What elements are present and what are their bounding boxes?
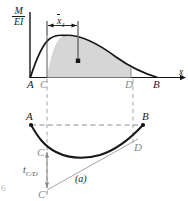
moment-area-figure: M EI x1 x A C D B A B C D C' tC/D (a) 6 <box>0 0 188 201</box>
point-label-D-elastic: D <box>134 142 142 153</box>
x-axis-label: x <box>179 68 183 78</box>
tangential-deviation-label: tC/D <box>23 165 37 178</box>
y-axis-label: M EI <box>12 6 25 27</box>
centroid-distance-subscript: 1 <box>61 21 65 29</box>
point-label-A-top: A <box>27 79 34 90</box>
dimension-arrowhead-right <box>72 23 78 27</box>
tangent-line-at-D <box>47 139 138 190</box>
tangential-deviation-subscript: C/D <box>26 170 38 178</box>
point-label-C-top: C <box>40 79 47 90</box>
page-number-marker: 6 <box>1 184 6 193</box>
deviation-arrowhead-top <box>45 152 49 158</box>
centroid-dot <box>76 59 80 63</box>
centroid-distance-label: x1 <box>57 16 65 29</box>
point-label-C-prime: C' <box>38 189 48 200</box>
point-marker-A-elastic <box>29 123 33 127</box>
point-marker-B-elastic <box>141 123 145 127</box>
y-axis-label-denominator: EI <box>12 17 25 27</box>
centroid-distance-symbol: x <box>57 15 61 26</box>
point-label-C-elastic: C <box>37 147 44 158</box>
dimension-arrowhead-left <box>48 23 54 27</box>
point-label-D-top: D <box>125 79 133 90</box>
figure-caption: (a) <box>75 174 87 184</box>
shaded-area-CD <box>47 35 131 77</box>
point-label-B-top: B <box>153 79 160 90</box>
point-label-B-elastic: B <box>142 111 149 122</box>
elastic-curve <box>31 125 143 158</box>
point-label-A-elastic: A <box>26 111 33 122</box>
